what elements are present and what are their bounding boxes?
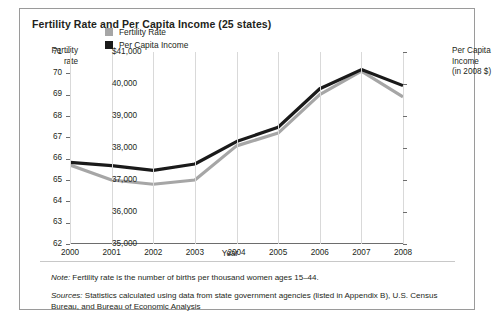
y-axis-left-tick-label: 66 [22,153,62,162]
gridline-2000 [70,52,71,244]
x-axis-tick-label: 2001 [92,248,132,257]
x-axis-tick-label: 2002 [133,248,173,257]
y-axis-left-tick [66,180,70,181]
y-axis-right-tick [403,52,407,53]
legend-item: Fertility Rate [105,27,188,37]
y-axis-right-tick [403,180,407,181]
y-axis-left-tick-label: 70 [22,68,62,77]
y-axis-right-tick [403,212,407,213]
y-axis-left-tick-label: 69 [22,89,62,98]
y-axis-right-tick-label: 37,000 [112,175,162,184]
figure-notes: Note: Fertility rate is the number of bi… [51,272,451,312]
legend-swatch-icon [105,41,113,49]
note-label: Note: [51,273,70,282]
x-axis-tick-label: 2006 [300,248,340,257]
gridline-2005 [278,52,279,244]
y-axis-left-tick-label: 65 [22,175,62,184]
y-axis-left-tick [66,95,70,96]
sources-row: Sources: Statistics calculated using dat… [51,290,451,312]
y-axis-left-tick-label: 64 [22,196,62,205]
y-axis-right-tick [403,148,407,149]
legend-label: Fertility Rate [119,27,166,37]
y-axis-left-tick-label: 67 [22,132,62,141]
y-axis-right-title-line3: (in 2008 $) [452,67,497,78]
y-axis-right-tick-label: 39,000 [112,111,162,120]
gridline-2007 [361,52,362,244]
y-axis-left-tick [66,201,70,202]
y-axis-left-tick [66,137,70,138]
legend-item: Per Capita Income [105,40,188,50]
legend-swatch-icon [105,28,113,36]
y-axis-right-tick-label: 35,000 [112,239,162,248]
y-axis-left-tick [66,223,70,224]
plot-area: 62636465666768697071 35,00036,00037,0003… [70,52,403,244]
gridline-2004 [237,52,238,244]
x-axis-title: Year [170,249,290,258]
gridline-2003 [195,52,196,244]
y-axis-left-tick [66,116,70,117]
note-text: Fertility rate is the number of births p… [70,273,319,282]
y-axis-right-tick-label: 36,000 [112,207,162,216]
sources-label: Sources: [51,291,83,300]
note-row: Note: Fertility rate is the number of bi… [51,272,451,283]
y-axis-left-tick-label: 62 [22,239,62,248]
y-axis-right-title: Per Capita Income (in 2008 $) [452,46,497,78]
y-axis-left-tick-label: 71 [22,47,62,56]
y-axis-right-tick [403,116,407,117]
y-axis-left-tick [66,52,70,53]
y-axis-right-title-line1: Per Capita [452,46,497,57]
y-axis-left-tick [66,73,70,74]
y-axis-right-tick [403,84,407,85]
y-axis-right-title-line2: Income [452,57,497,68]
sources-text: Statistics calculated using data from st… [51,291,437,311]
y-axis-right-tick [403,244,407,245]
y-axis-left-tick-label: 68 [22,111,62,120]
y-axis-left-tick [66,159,70,160]
y-axis-right-tick-label: 40,000 [112,79,162,88]
x-axis-tick-label: 2007 [341,248,381,257]
figure-panel: Fertility Rate and Per Capita Income (25… [19,8,475,310]
y-axis-left-tick-label: 63 [22,217,62,226]
x-axis-tick-label: 2000 [50,248,90,257]
x-axis-tick-label: 2008 [383,248,423,257]
chart-legend: Fertility RatePer Capita Income [105,27,188,53]
y-axis-left-tick [66,244,70,245]
legend-label: Per Capita Income [119,40,188,50]
gridline-2006 [320,52,321,244]
y-axis-right-tick-label: 38,000 [112,143,162,152]
note-divider [40,261,455,262]
